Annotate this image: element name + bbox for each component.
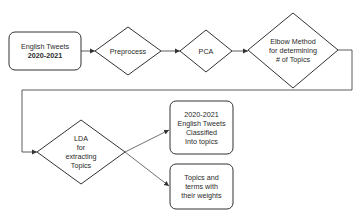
elbow-label-line-3: # of Topics [276,55,310,64]
elbow-label-line-1: Elbow Method [270,37,316,46]
classified-label-line-3: Classified [186,128,217,137]
classified-label-line-2: English Tweets [177,119,225,128]
lda-label-line-3: extracting [65,152,96,161]
preprocess-label: Preprocess [95,27,161,75]
lda-label-line-4: Topics [71,161,91,170]
preprocess-label-line-1: Preprocess [110,47,146,56]
arrow-lda-to-topics [125,152,169,186]
classified-label-line-4: Into topics [185,137,218,146]
input-label-line-1: English Tweets [21,42,69,51]
lda-label-line-1: LDA [74,134,88,143]
input-label-line-2: 2020-2021 [28,51,62,60]
arrow-lda-to-classified [125,130,169,152]
elbow-label: Elbow Method for determining # of Topics [248,13,338,88]
pca-label: PCA [180,30,232,72]
input-label: English Tweets 2020-2021 [9,32,81,70]
classified-label: 2020-2021 English Tweets Classified Into… [170,101,233,154]
lda-label: LDA for extracting Topics [37,120,125,184]
classified-label-line-1: 2020-2021 [184,110,218,119]
topics-label-line-1: Topics and [184,173,218,182]
lda-label-line-2: for [77,143,85,152]
topics-label-line-3: their weights [181,191,221,200]
elbow-label-line-2: for determining [269,46,317,55]
topics-label: Topics and terms with their weights [170,164,233,209]
topics-label-line-2: terms with [185,182,218,191]
pca-label-line-1: PCA [199,47,214,56]
